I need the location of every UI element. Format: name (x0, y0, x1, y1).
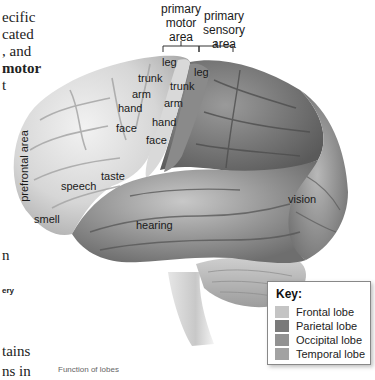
vision-label: vision (288, 193, 316, 205)
sensory-label-trunk: trunk (170, 80, 194, 92)
motor-label-face: face (116, 122, 137, 134)
legend-title: Key: (276, 287, 302, 301)
legend-key: Key: Frontal lobe Parietal lobe Occipita… (267, 281, 371, 365)
sensory-label-hand: hand (152, 116, 176, 128)
legend-label: Temporal lobe (296, 348, 365, 360)
motor-label-trunk: trunk (138, 72, 162, 84)
hearing-label: hearing (136, 219, 173, 231)
legend-label: Parietal lobe (296, 320, 357, 332)
temporal-swatch (275, 348, 289, 360)
legend-item-occipital: Occipital lobe (275, 333, 362, 346)
smell-label: smell (34, 213, 60, 225)
parietal-swatch (275, 320, 289, 332)
legend-item-frontal: Frontal lobe (275, 305, 354, 318)
occipital-swatch (275, 334, 289, 346)
legend-item-parietal: Parietal lobe (275, 319, 357, 332)
legend-item-temporal: Temporal lobe (275, 347, 365, 360)
taste-label: taste (101, 170, 125, 182)
sensory-label-leg: leg (194, 66, 209, 78)
legend-label: Frontal lobe (296, 306, 354, 318)
motor-label-arm: arm (132, 88, 151, 100)
primary-motor-area-header: primary motor area (160, 2, 202, 44)
primary-sensory-area-header: primary sensory area (200, 9, 248, 51)
prefrontal-area-label: prefrontal area (18, 126, 30, 206)
sensory-label-arm: arm (164, 97, 183, 109)
legend-label: Occipital lobe (296, 334, 362, 346)
motor-label-leg: leg (162, 56, 177, 68)
sensory-label-face: face (146, 134, 167, 146)
speech-label: speech (61, 180, 96, 192)
motor-label-hand: hand (118, 102, 142, 114)
frontal-swatch (275, 306, 289, 318)
